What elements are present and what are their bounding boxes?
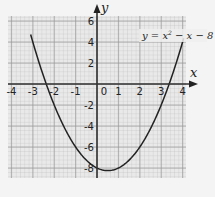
y-tick-6: 6 bbox=[88, 16, 94, 27]
x-tick--2: -2 bbox=[49, 86, 59, 97]
y-tick--8: -8 bbox=[84, 163, 94, 174]
y-axis-label: y bbox=[100, 0, 109, 15]
x-tick-1: 1 bbox=[115, 86, 121, 97]
y-tick-2: 2 bbox=[88, 58, 94, 69]
x-tick--3: -3 bbox=[28, 86, 38, 97]
x-tick-0: 0 bbox=[101, 86, 107, 97]
y-tick--2: -2 bbox=[84, 100, 94, 111]
equation-label: y = x2 − x − 8 bbox=[141, 29, 213, 41]
x-tick--4: -4 bbox=[6, 86, 16, 97]
x-tick-4: 4 bbox=[179, 86, 185, 97]
graph: x y -4-3-2-101234 642-2-4-6-8 y = x2 − x… bbox=[0, 0, 215, 197]
y-tick--4: -4 bbox=[84, 121, 94, 132]
x-tick--1: -1 bbox=[71, 86, 81, 97]
x-axis-arrow-icon bbox=[189, 81, 198, 88]
y-tick--6: -6 bbox=[84, 142, 94, 153]
x-axis-label: x bbox=[190, 65, 198, 80]
y-axis-arrow-icon bbox=[94, 4, 101, 13]
y-tick-4: 4 bbox=[88, 37, 94, 48]
x-tick-3: 3 bbox=[158, 86, 164, 97]
x-tick-2: 2 bbox=[137, 86, 143, 97]
